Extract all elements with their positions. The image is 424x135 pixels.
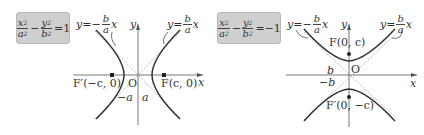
- y-axis-label: y: [130, 18, 136, 31]
- focus-bottom-label: F′(0, −c): [326, 99, 374, 112]
- x-axis-label: x: [410, 77, 416, 90]
- asymptote-pos-label: y=bax: [380, 14, 412, 35]
- right-hyperbola-diagram: x2a2 − y2b2 =−1 y=−bax y=bax y x O F(0, …: [212, 0, 424, 135]
- focus-top-label: F(0, c): [329, 36, 365, 49]
- focus-left-label: F′(−c, 0): [73, 77, 121, 90]
- y-axis-label: y: [341, 18, 347, 31]
- focus-right-label: F(c, 0): [161, 77, 197, 90]
- x-axis-label: x: [198, 76, 204, 89]
- left-hyperbola-diagram: x2a2 − y2b2 =1 y=−bax y=bax y x O F′(−c,…: [0, 0, 212, 135]
- origin-label: O: [351, 63, 360, 76]
- equation-box: x2a2 − y2b2 =−1: [217, 12, 281, 44]
- vertex-left-label: −a: [117, 91, 133, 104]
- equation-box: x2a2 − y2b2 =1: [16, 12, 70, 44]
- vertex-right-label: a: [142, 91, 149, 104]
- asymptote-neg-label: y=−bax: [287, 14, 328, 35]
- vertex-bottom-label: −b: [319, 76, 335, 89]
- asymptote-pos-label: y=bax: [167, 14, 199, 35]
- origin-label: O: [128, 77, 137, 90]
- asymptote-neg-label: y=−bax: [76, 14, 117, 35]
